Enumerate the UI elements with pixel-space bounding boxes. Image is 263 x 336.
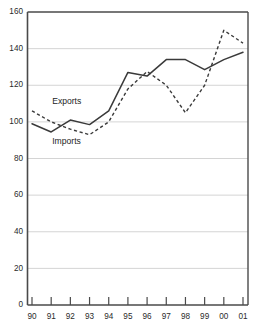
line-chart: 020406080100120140160 909192939495969798… <box>0 0 263 336</box>
x-tick-label-01: 01 <box>238 312 248 321</box>
x-tick-label-91: 91 <box>47 312 57 321</box>
y-tick-label-20: 20 <box>14 264 24 273</box>
x-tick-label-98: 98 <box>181 312 191 321</box>
annotation-imports: Imports <box>52 136 81 146</box>
y-axis-tick-labels: 020406080100120140160 <box>9 7 23 309</box>
y-tick-label-40: 40 <box>14 227 24 236</box>
series-line-exports <box>32 30 243 134</box>
x-tick-label-99: 99 <box>200 312 210 321</box>
gridlines <box>28 49 249 269</box>
y-tick-label-60: 60 <box>14 190 24 199</box>
data-series <box>32 30 243 134</box>
chart-container: 020406080100120140160 909192939495969798… <box>0 0 263 336</box>
y-tick-label-160: 160 <box>9 7 23 16</box>
x-tick-label-94: 94 <box>104 312 114 321</box>
y-tick-label-120: 120 <box>9 80 23 89</box>
y-tick-label-140: 140 <box>9 44 23 53</box>
x-tick-label-96: 96 <box>143 312 153 321</box>
x-tick-label-00: 00 <box>219 312 229 321</box>
x-tick-label-97: 97 <box>162 312 172 321</box>
y-tick-label-0: 0 <box>18 300 23 309</box>
x-axis-ticks <box>32 297 243 305</box>
x-tick-label-90: 90 <box>27 312 37 321</box>
series-annotations: ExportsImports <box>52 96 81 146</box>
x-tick-label-92: 92 <box>66 312 76 321</box>
x-tick-label-93: 93 <box>85 312 95 321</box>
x-axis-tick-labels: 909192939495969798990001 <box>27 312 248 321</box>
x-tick-label-95: 95 <box>123 312 133 321</box>
y-tick-label-80: 80 <box>14 154 24 163</box>
y-tick-label-100: 100 <box>9 117 23 126</box>
annotation-exports: Exports <box>52 96 81 106</box>
